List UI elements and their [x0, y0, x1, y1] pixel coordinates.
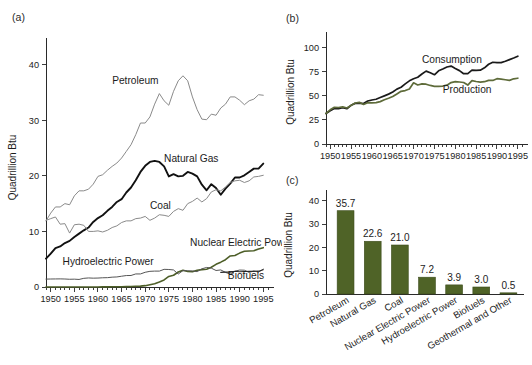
bar [391, 245, 408, 294]
bar [446, 285, 463, 294]
y-tick-label: 25 [309, 115, 319, 125]
panel-a-label: (a) [12, 11, 25, 23]
y-tick-label: 75 [309, 67, 319, 77]
bar [500, 293, 517, 294]
bar-value-label: 3.0 [474, 274, 488, 285]
x-tick-label: 1980 [182, 294, 202, 304]
panel-c-label: (c) [286, 174, 299, 186]
x-tick-label: 1980 [445, 151, 465, 161]
x-tick-label: 1965 [111, 294, 131, 304]
series-label-hydroelectric-power: Hydroelectric Power [63, 256, 155, 267]
x-tick-label: 1955 [64, 294, 84, 304]
y-tick-label: 10 [29, 227, 39, 237]
x-tick-label: 1955 [341, 151, 361, 161]
panel-b-label: (b) [286, 12, 299, 24]
x-tick-label: 1990 [229, 294, 249, 304]
bar-value-label: 3.9 [447, 272, 461, 283]
x-tick-label: 1995 [253, 294, 273, 304]
y-tick-label: 100 [304, 43, 319, 53]
y-axis-title: Quadrillion Btu [7, 135, 18, 201]
y-axis-title: Quadrillion Btu [285, 59, 296, 125]
x-tick-label: 1985 [206, 294, 226, 304]
series-label-nuclear-electric-power: Nuclear Electric Power [190, 237, 282, 248]
bar-value-label: 22.6 [363, 228, 383, 239]
series-line-nuclear-electric-power [46, 248, 263, 287]
series-label-production: Production [443, 84, 492, 95]
y-tick-label: 30 [29, 116, 39, 126]
series-label-biofuels: Biofuels [228, 270, 264, 281]
panel-c-chart: 010203040Quadrillion Btu35.7Petroleum22.… [276, 168, 532, 365]
y-axis-title: Quadrillion Btu [283, 212, 294, 278]
series-label-consumption: Consumption [422, 54, 482, 65]
y-tick-label: 0 [314, 139, 319, 149]
panel-b-production-consumption: (b) 025507510019501955196019651970197519… [276, 4, 532, 172]
x-tick-label: 1950 [40, 294, 60, 304]
y-tick-label: 40 [29, 60, 39, 70]
y-tick-label: 10 [309, 266, 319, 276]
bar [419, 277, 436, 294]
series-label-coal: Coal [150, 200, 171, 211]
series-label-natural-gas: Natural Gas [164, 153, 218, 164]
x-tick-label: 1975 [424, 151, 444, 161]
bar-value-label: 21.0 [390, 232, 410, 243]
x-tick-label: 1960 [88, 294, 108, 304]
x-tick-label: 1975 [159, 294, 179, 304]
x-tick-label: 1950 [320, 151, 340, 161]
x-tick-label: 1965 [382, 151, 402, 161]
y-tick-label: 40 [309, 196, 319, 206]
bar [364, 241, 381, 294]
bar [337, 211, 354, 294]
y-tick-label: 0 [314, 289, 319, 299]
panel-a-chart: 0102030401950195519601965197019751980198… [0, 0, 282, 340]
y-tick-label: 50 [309, 91, 319, 101]
x-tick-label: 1995 [508, 151, 528, 161]
bar-value-label: 7.2 [420, 264, 434, 275]
y-tick-label: 30 [309, 219, 319, 229]
y-tick-label: 20 [29, 171, 39, 181]
panel-a-energy-by-source: (a) 010203040195019551960196519701975198… [0, 0, 282, 340]
x-tick-label: 1985 [466, 151, 486, 161]
panel-c-source-breakdown: (c) 010203040Quadrillion Btu35.7Petroleu… [276, 168, 532, 365]
bar [473, 287, 490, 294]
panel-b-chart: 0255075100195019551960196519701975198019… [276, 4, 532, 172]
bar-value-label: 35.7 [336, 198, 356, 209]
y-tick-label: 0 [34, 282, 39, 292]
x-tick-label: 1960 [362, 151, 382, 161]
y-tick-label: 20 [309, 243, 319, 253]
x-tick-label: 1990 [487, 151, 507, 161]
x-tick-label: 1970 [403, 151, 423, 161]
x-tick-label: 1970 [135, 294, 155, 304]
series-label-petroleum: Petroleum [112, 75, 158, 86]
bar-value-label: 0.5 [501, 280, 515, 291]
energy-figure: (a) 010203040195019551960196519701975198… [0, 0, 532, 365]
